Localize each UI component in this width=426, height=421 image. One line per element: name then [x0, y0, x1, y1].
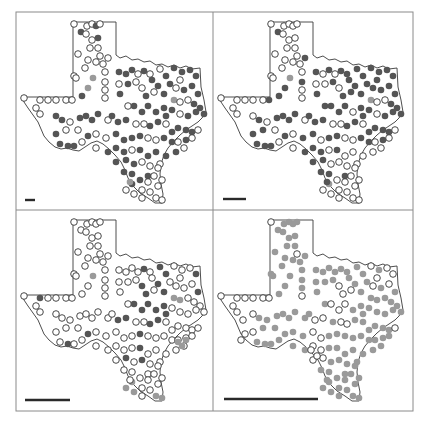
station-marker-open [147, 387, 154, 394]
station-marker-light [324, 377, 331, 384]
station-marker-open [234, 295, 241, 302]
station-marker-open [177, 77, 184, 84]
station-marker-light [372, 323, 379, 330]
station-marker-dark [85, 133, 92, 140]
station-marker-open [250, 97, 257, 104]
station-marker-open [169, 305, 176, 312]
station-marker-light [287, 273, 294, 280]
station-marker-open [85, 283, 92, 290]
station-marker-dark [300, 135, 307, 142]
station-marker-open [266, 295, 273, 302]
station-marker-open [139, 393, 146, 400]
station-marker-open [374, 275, 381, 282]
station-marker-open [336, 195, 343, 202]
station-marker-light [262, 341, 269, 348]
station-marker-dark [129, 171, 136, 178]
station-marker-open [312, 317, 319, 324]
station-marker-dark [147, 321, 154, 328]
station-marker-light [382, 295, 389, 302]
station-marker-open [173, 85, 180, 92]
station-marker-open [326, 147, 333, 154]
station-marker-dark [336, 109, 343, 116]
station-marker-open [116, 81, 123, 88]
station-marker-dark [312, 119, 319, 126]
station-marker-open [151, 89, 158, 96]
station-marker-open [151, 371, 158, 378]
station-marker-open [328, 161, 335, 168]
station-marker-open [83, 229, 90, 236]
station-marker-light [346, 275, 353, 282]
station-marker-dark [147, 123, 154, 130]
station-marker-open [87, 243, 94, 250]
station-marker-open [336, 283, 343, 290]
station-marker-light [360, 271, 367, 278]
station-marker-light [282, 283, 289, 290]
station-marker-open [250, 113, 257, 120]
station-marker-open [328, 301, 335, 308]
station-marker-open [147, 361, 154, 368]
station-marker-open [75, 325, 82, 332]
station-marker-open [292, 45, 299, 52]
station-marker-open [284, 45, 291, 52]
station-marker-dark [390, 73, 397, 80]
station-marker-light [280, 311, 287, 318]
station-marker-open [100, 61, 107, 68]
station-marker-open [123, 187, 130, 194]
station-marker-dark [376, 69, 383, 76]
station-marker-open [320, 315, 327, 322]
station-marker-open [105, 253, 112, 260]
station-marker-open [147, 163, 154, 170]
station-marker-light [350, 307, 357, 314]
station-marker-open [100, 259, 107, 266]
station-marker-open [97, 53, 104, 60]
station-marker-light [302, 253, 309, 260]
station-marker-dark [123, 117, 130, 124]
station-marker-dark [302, 149, 309, 156]
station-marker-open [145, 333, 152, 340]
station-marker-open [250, 329, 257, 336]
station-marker-open [139, 385, 146, 392]
station-marker-light [364, 279, 371, 286]
station-marker-open [139, 195, 146, 202]
station-marker-open [299, 293, 306, 300]
station-marker-open [290, 59, 297, 66]
station-marker-open [116, 267, 123, 274]
station-marker-open [21, 293, 28, 300]
station-marker-light [268, 341, 275, 348]
station-marker-open [268, 21, 275, 28]
station-marker-dark [123, 157, 130, 164]
station-marker-light [376, 267, 383, 274]
station-marker-light [292, 233, 299, 240]
station-marker-open [75, 249, 82, 256]
station-marker-open [185, 295, 192, 302]
station-marker-open [336, 159, 343, 166]
station-marker-dark [299, 79, 306, 86]
station-marker-dark [113, 131, 120, 138]
station-marker-open [189, 333, 196, 340]
station-marker-dark [161, 105, 168, 112]
station-marker-dark [366, 107, 373, 114]
station-marker-dark [179, 69, 186, 76]
station-marker-open [189, 281, 196, 288]
station-marker-dark [113, 145, 120, 152]
station-marker-light [350, 347, 357, 354]
station-marker-open [234, 111, 241, 118]
station-marker-open [167, 279, 174, 286]
station-marker-light [342, 371, 349, 378]
station-marker-dark [105, 149, 112, 156]
station-marker-dark [313, 69, 320, 76]
station-marker-open [141, 121, 148, 128]
station-marker-dark [79, 93, 86, 100]
station-marker-open [294, 21, 301, 28]
station-marker-open [102, 87, 109, 94]
station-marker-dark [370, 85, 377, 92]
station-marker-open [131, 191, 138, 198]
station-marker-open [195, 127, 202, 134]
station-marker-dark [326, 171, 333, 178]
station-marker-open [374, 111, 381, 118]
station-marker-open [218, 293, 225, 300]
station-marker-open [147, 71, 154, 78]
station-marker-light [336, 357, 343, 364]
station-marker-light [360, 319, 367, 326]
station-marker-open [147, 189, 154, 196]
